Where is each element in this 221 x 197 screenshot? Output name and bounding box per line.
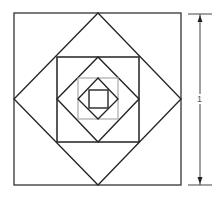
square-2 — [57, 57, 139, 142]
outer-square — [14, 13, 181, 185]
dimension-label: 1 — [196, 94, 203, 104]
nested-squares-diagram — [0, 0, 221, 197]
gray-square — [78, 78, 118, 119]
inner-square — [89, 90, 108, 108]
arrow-down-icon — [198, 177, 203, 184]
diamond-3 — [78, 78, 118, 119]
diamond-2 — [57, 57, 139, 142]
diamond-1 — [14, 13, 181, 185]
arrow-up-icon — [198, 15, 203, 22]
